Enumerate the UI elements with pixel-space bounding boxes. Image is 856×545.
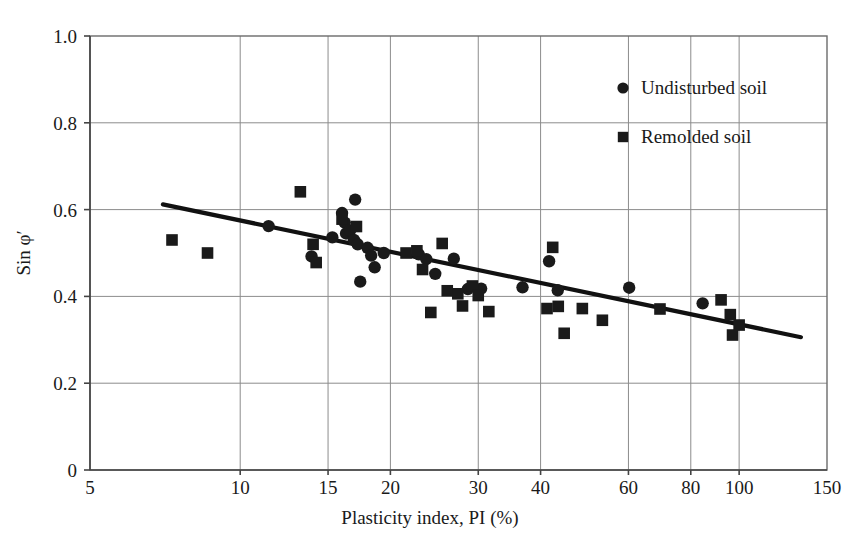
data-point-1-9 bbox=[417, 264, 429, 276]
legend-marker-circle bbox=[617, 82, 628, 93]
x-tick-60: 60 bbox=[619, 477, 638, 498]
data-point-1-20 bbox=[552, 301, 564, 313]
x-tick-15: 15 bbox=[319, 477, 338, 498]
x-tick-20: 20 bbox=[381, 477, 400, 498]
x-tick-80: 80 bbox=[681, 477, 700, 498]
data-point-0-12 bbox=[365, 249, 377, 261]
legend-label-1: Remolded soil bbox=[641, 126, 751, 147]
data-point-1-27 bbox=[727, 329, 739, 341]
data-point-1-17 bbox=[483, 306, 495, 318]
x-tick-30: 30 bbox=[469, 477, 488, 498]
data-point-0-8 bbox=[349, 193, 361, 205]
data-point-1-18 bbox=[541, 303, 553, 315]
data-point-0-2 bbox=[326, 231, 338, 243]
data-point-1-5 bbox=[336, 213, 348, 225]
data-point-0-22 bbox=[543, 255, 555, 267]
data-point-1-28 bbox=[733, 319, 745, 331]
data-point-1-14 bbox=[457, 300, 469, 312]
y-tick-0.6: 0.6 bbox=[53, 200, 77, 221]
data-point-1-24 bbox=[654, 303, 666, 315]
y-tick-1.0: 1.0 bbox=[53, 26, 77, 47]
data-point-0-17 bbox=[429, 268, 441, 280]
data-point-1-11 bbox=[436, 238, 448, 250]
data-point-1-10 bbox=[425, 307, 437, 319]
data-point-1-12 bbox=[441, 285, 453, 297]
x-axis-title: Plasticity index, PI (%) bbox=[341, 507, 518, 529]
y-tick-0.2: 0.2 bbox=[53, 373, 77, 394]
y-axis-title: Sin φ′ bbox=[13, 230, 34, 275]
data-point-1-23 bbox=[597, 314, 609, 326]
x-tick-10: 10 bbox=[231, 477, 250, 498]
data-point-1-6 bbox=[351, 221, 363, 233]
data-point-1-22 bbox=[577, 303, 589, 315]
data-point-1-8 bbox=[411, 245, 423, 257]
data-point-0-10 bbox=[354, 275, 366, 287]
data-point-0-24 bbox=[623, 282, 635, 294]
data-point-1-7 bbox=[400, 247, 412, 259]
data-point-0-13 bbox=[368, 261, 380, 273]
data-point-0-0 bbox=[262, 220, 274, 232]
data-point-1-4 bbox=[310, 257, 322, 269]
data-point-0-23 bbox=[552, 284, 564, 296]
y-tick-0.8: 0.8 bbox=[53, 113, 77, 134]
data-point-1-13 bbox=[452, 288, 464, 300]
x-tick-5: 5 bbox=[85, 477, 95, 498]
chart-figure: 510152030406080100150 00.20.40.60.81.0 U… bbox=[0, 0, 856, 545]
data-point-0-18 bbox=[448, 252, 460, 264]
data-point-1-16 bbox=[472, 290, 484, 302]
data-point-0-25 bbox=[696, 297, 708, 309]
data-point-0-14 bbox=[378, 247, 390, 259]
y-tick-0: 0 bbox=[68, 460, 78, 481]
x-tick-100: 100 bbox=[725, 477, 754, 498]
x-tick-150: 150 bbox=[813, 477, 842, 498]
data-point-0-21 bbox=[516, 281, 528, 293]
legend-label-0: Undisturbed soil bbox=[641, 77, 767, 98]
data-point-1-2 bbox=[295, 186, 307, 198]
data-point-1-0 bbox=[166, 234, 178, 246]
data-point-1-3 bbox=[307, 239, 319, 251]
data-point-1-19 bbox=[547, 242, 559, 254]
data-point-1-1 bbox=[202, 247, 214, 259]
legend-marker-square bbox=[618, 132, 628, 142]
y-tick-0.4: 0.4 bbox=[53, 286, 77, 307]
data-point-1-21 bbox=[558, 327, 570, 339]
x-tick-40: 40 bbox=[531, 477, 550, 498]
data-point-1-25 bbox=[715, 294, 727, 306]
data-point-1-26 bbox=[724, 309, 736, 321]
